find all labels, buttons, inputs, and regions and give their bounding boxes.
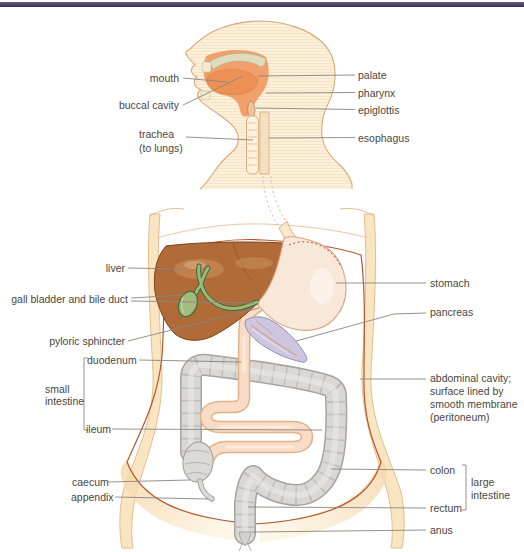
label-abdominal-line2: surface lined by: [430, 385, 518, 398]
label-ileum: ileum: [86, 423, 111, 435]
label-small-intestine: small intestine: [45, 383, 84, 407]
appendix-shape: [200, 481, 212, 499]
leader-caecum: [107, 480, 190, 482]
label-large-intestine-line1: large: [471, 476, 510, 489]
bracket-small-intestine: [84, 358, 88, 430]
label-pharynx: pharynx: [358, 87, 395, 99]
upper-teeth: [202, 62, 211, 72]
label-abdominal-line3: smooth membrane: [430, 398, 518, 411]
label-rectum: rectum: [430, 502, 462, 514]
head-profile: [186, 21, 352, 189]
label-appendix: appendix: [71, 491, 114, 503]
label-colon: colon: [430, 464, 455, 476]
label-mouth: mouth: [150, 72, 179, 84]
label-large-intestine: large intestine: [471, 476, 510, 502]
label-epiglottis: epiglottis: [358, 104, 399, 116]
label-liver: liver: [106, 262, 125, 274]
label-palate: palate: [358, 69, 387, 81]
label-abdominal-cavity: abdominal cavity; surface lined by smoot…: [430, 372, 518, 424]
textbook-page: mouth buccal cavity trachea (to lungs) p…: [0, 0, 524, 552]
label-large-intestine-line2: intestine: [471, 489, 510, 502]
label-pancreas: pancreas: [430, 306, 473, 318]
label-gall-bladder: gall bladder and bile duct: [11, 293, 128, 305]
label-small-intestine-line2: intestine: [45, 395, 84, 407]
label-stomach: stomach: [430, 277, 470, 289]
label-trachea-line2: (to lungs): [139, 141, 183, 155]
label-small-intestine-line1: small: [45, 383, 84, 395]
chest-line: [157, 224, 368, 238]
leader-colon: [331, 469, 426, 470]
label-buccal-cavity: buccal cavity: [119, 99, 179, 111]
leader-esophagus: [269, 138, 355, 139]
label-pyloric-sphincter: pyloric sphincter: [49, 335, 125, 347]
label-anus: anus: [430, 524, 453, 536]
label-abdominal-line1: abdominal cavity;: [430, 372, 518, 385]
leader-pharynx: [266, 93, 355, 94]
esophagus-neck-tube: [260, 112, 269, 174]
label-esophagus: esophagus: [358, 132, 409, 144]
label-trachea: trachea (to lungs): [139, 127, 183, 155]
bracket-large-intestine: [462, 465, 466, 510]
label-caecum: caecum: [72, 476, 109, 488]
label-trachea-line1: trachea: [139, 127, 183, 141]
label-abdominal-line4: (peritoneum): [430, 411, 518, 424]
label-duodenum: duodenum: [87, 354, 137, 366]
